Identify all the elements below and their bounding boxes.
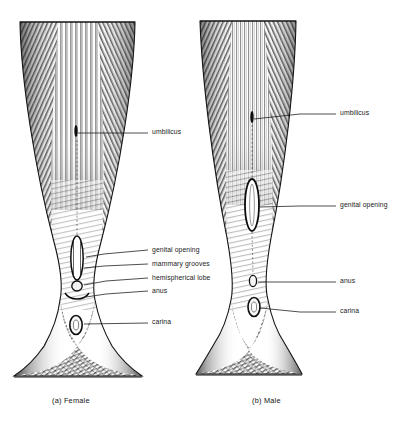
label-male-genital-opening: genital opening — [340, 201, 388, 209]
label-female-genital-opening: genital opening — [152, 246, 200, 254]
label-female-anus: anus — [152, 287, 167, 295]
anatomy-plate-svg — [0, 0, 412, 427]
caption-female: (a) Female — [52, 396, 90, 405]
male-umbilicus — [250, 111, 253, 123]
label-male-carina: carina — [340, 307, 359, 315]
female-hemispherical-lobe — [72, 281, 82, 291]
male-genital-opening-inner — [250, 184, 255, 226]
female-umbilicus — [74, 125, 77, 137]
female-genital-opening — [71, 236, 83, 280]
label-female-umbilicus: umbilicus — [152, 128, 181, 136]
label-female-hemispherical-lobe: hemispherical lobe — [152, 274, 210, 282]
label-male-umbilicus: umbilicus — [340, 109, 369, 117]
male-carina-inner — [251, 302, 256, 312]
male-anus — [249, 275, 256, 286]
female-carina-inner — [73, 320, 78, 330]
caption-male: (b) Male — [252, 396, 281, 405]
illustration-plate: umbilicus genital opening mammary groove… — [0, 0, 412, 427]
label-female-mammary-grooves: mammary grooves — [152, 260, 210, 268]
label-female-carina: carina — [152, 318, 171, 326]
label-male-anus: anus — [340, 277, 355, 285]
